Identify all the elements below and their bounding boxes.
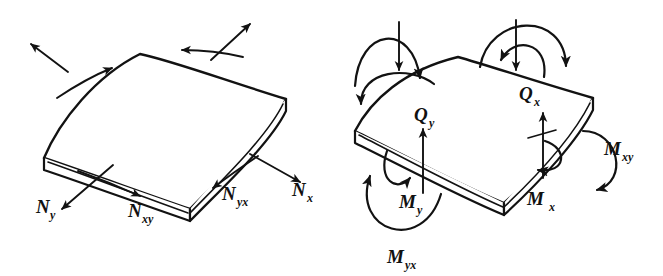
label-n-yx-base: N: [221, 183, 237, 204]
shell-element-figure: N y N xy N yx N x: [0, 0, 663, 276]
label-m-x-subscript: x: [548, 200, 555, 214]
label-n-x-base: N: [291, 179, 307, 200]
label-n-y: N y: [35, 196, 56, 222]
label-n-yx-subscript: yx: [235, 195, 248, 209]
label-m-yx-base: M: [386, 246, 405, 267]
label-m-y-base: M: [398, 191, 417, 212]
label-m-x: M x: [526, 188, 555, 214]
shell-top-surface: [44, 54, 286, 209]
label-m-x-base: M: [526, 188, 545, 209]
figure-canvas: N y N xy N yx N x: [0, 0, 663, 276]
right-shell-element: Q y Q x M xy M y M x M yx: [355, 20, 634, 272]
label-q-y-base: Q: [414, 104, 428, 125]
label-m-y-subscript: y: [415, 203, 423, 217]
left-shell-element: N y N xy N yx N x: [31, 24, 313, 226]
label-m-xy: M xy: [603, 138, 634, 164]
label-q-x-subscript: x: [533, 95, 540, 109]
label-n-xy-base: N: [127, 200, 143, 221]
label-m-xy-base: M: [603, 138, 622, 159]
label-m-y: M y: [398, 191, 423, 217]
label-m-xy-subscript: xy: [621, 150, 634, 164]
label-n-y-subscript: y: [48, 208, 56, 222]
arrow-n-y-top: [31, 44, 68, 72]
label-q-x-base: Q: [519, 83, 533, 104]
label-q-y-subscript: y: [427, 116, 435, 130]
label-n-yx: N yx: [221, 183, 248, 209]
label-n-x: N x: [291, 179, 313, 205]
arrow-n-x-bottom: [250, 154, 300, 182]
label-n-x-subscript: x: [306, 191, 313, 205]
label-n-xy-subscript: xy: [141, 212, 154, 226]
label-n-y-base: N: [35, 196, 51, 217]
label-m-yx: M yx: [386, 246, 416, 272]
arrow-n-yx-top: [182, 50, 243, 57]
label-m-yx-subscript: yx: [403, 258, 416, 272]
